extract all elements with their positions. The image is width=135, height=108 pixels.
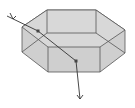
hexagonal-prism: [22, 10, 125, 72]
caption: [0, 101, 135, 108]
entry-point: [37, 30, 40, 33]
crystal-diagram: [0, 0, 135, 108]
exit-point: [75, 60, 78, 63]
